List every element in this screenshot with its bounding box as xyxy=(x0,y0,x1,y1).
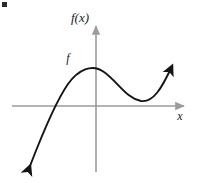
y-axis-label: f(x) xyxy=(71,10,89,25)
x-axis-label: x xyxy=(176,109,183,123)
curve-label-f: f xyxy=(66,51,71,65)
function-curve xyxy=(30,66,172,166)
cubic-function-graph-figure: f(x) x f xyxy=(0,0,201,183)
graph-canvas: f(x) x f xyxy=(0,0,201,183)
